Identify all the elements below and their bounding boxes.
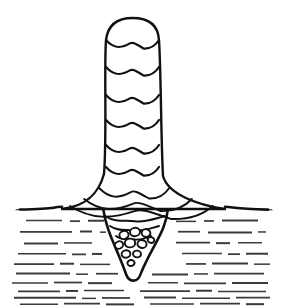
bubble bbox=[121, 249, 131, 258]
bubble bbox=[127, 260, 135, 266]
bubble bbox=[124, 238, 135, 248]
line-illustration bbox=[0, 0, 284, 307]
bubble bbox=[133, 250, 142, 258]
bubble bbox=[129, 227, 140, 237]
bubble bbox=[141, 228, 151, 237]
figure-canvas bbox=[0, 0, 284, 307]
